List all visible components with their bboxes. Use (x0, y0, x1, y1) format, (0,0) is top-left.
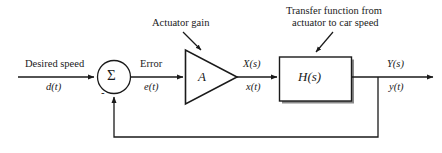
block-diagram-figure: Desired speed d(t) Σ - Error e(t) A Actu… (0, 0, 442, 153)
actuator-gain-annotation: Actuator gain (152, 17, 209, 29)
actuator-signal-label-top: X(s) (243, 58, 261, 70)
summing-junction-symbol: Σ (107, 67, 116, 84)
output-label-bottom: y(t) (389, 81, 404, 93)
actuator-signal-label-bottom: x(t) (246, 81, 261, 93)
amplifier-triangle (186, 50, 238, 104)
input-label-bottom: d(t) (46, 81, 61, 93)
error-label-bottom: e(t) (144, 81, 159, 93)
transfer-function-annotation-line2: actuator to car speed (292, 17, 379, 29)
plant-symbol: H(s) (298, 70, 321, 85)
amplifier-symbol: A (198, 70, 206, 85)
transfer-function-annotation-line1: Transfer function from (286, 5, 382, 17)
input-label-top: Desired speed (25, 58, 84, 70)
error-label-top: Error (140, 58, 162, 70)
actuator-gain-leader-arrow (183, 32, 201, 50)
output-label-top: Y(s) (387, 58, 404, 70)
summing-junction-negative-sign: - (101, 86, 105, 98)
transfer-function-leader-arrow (316, 32, 333, 52)
